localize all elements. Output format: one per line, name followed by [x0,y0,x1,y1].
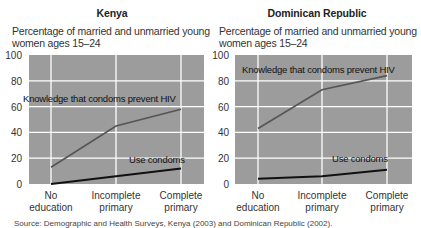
x-category-label: primary [370,202,403,213]
x-category-label: primary [305,202,338,213]
y-tick-label: 60 [218,102,230,113]
y-tick-label: 80 [218,76,230,87]
y-tick-label: 40 [218,127,230,138]
line-plot: 020406080100NoeducationIncompleteprimary… [0,0,208,224]
y-tick-label: 40 [11,127,23,138]
x-category-label: Complete [366,190,409,201]
x-category-label: No [252,190,265,201]
x-category-label: Complete [160,190,203,201]
y-tick-label: 60 [11,102,23,113]
kenya-chart-panel: Kenya Percentage of married and unmarrie… [0,0,208,224]
x-category-label: No [45,190,58,201]
y-tick-label: 80 [11,76,23,87]
x-category-label: Incomplete [92,190,141,201]
y-tick-label: 20 [11,153,23,164]
x-category-label: primary [99,202,132,213]
series-label-use-condoms: Use condoms [332,153,388,164]
y-tick-label: 100 [5,50,22,61]
x-category-label: education [29,202,72,213]
y-tick-label: 0 [16,179,22,190]
x-category-label: primary [164,202,197,213]
source-note: Source: Demographic and Health Surveys, … [14,219,332,228]
dominican-republic-chart-panel: Dominican Republic Percentage of married… [207,0,415,224]
y-tick-label: 100 [212,50,229,61]
x-category-label: education [236,202,279,213]
series-label-use-condoms: Use condoms [129,154,185,165]
x-category-label: Incomplete [298,190,347,201]
y-tick-label: 0 [223,179,229,190]
y-tick-label: 20 [218,153,230,164]
series-label-knowledge: Knowledge that condoms prevent HIV [242,64,396,75]
line-plot: 020406080100NoeducationIncompleteprimary… [207,0,417,224]
series-label-knowledge: Knowledge that condoms prevent HIV [23,93,177,104]
